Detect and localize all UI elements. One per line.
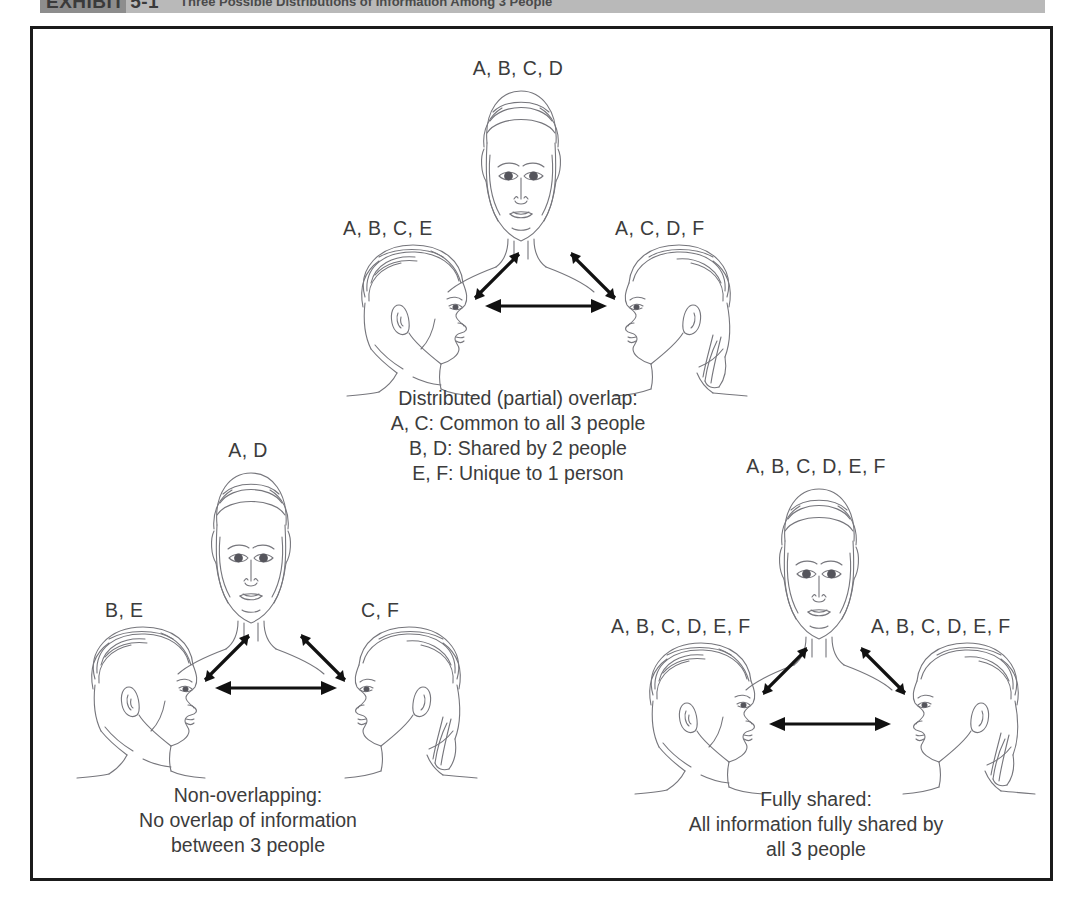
set-label-top: A, B, C, D, E, F <box>746 455 886 478</box>
right-profile-head-icon <box>893 635 1045 795</box>
person-group-non-overlapping: A, D <box>43 411 503 881</box>
figure-frame: A, B, C, D <box>30 26 1053 881</box>
caption-line: all 3 people <box>689 837 944 862</box>
caption-line: All information fully shared by <box>689 812 944 837</box>
person-group-fully-shared: A, B, C, D, E, F <box>581 439 1051 884</box>
exhibit-number-label: EXHIBIT 5-1 <box>46 0 159 13</box>
running-header: EXHIBIT 5-1 Three Possible Distributions… <box>0 0 1080 15</box>
group-caption: Fully shared: All information fully shar… <box>689 787 944 862</box>
double-headed-arrow-icon <box>483 291 609 321</box>
group-caption: Non-overlapping: No overlap of informati… <box>139 783 357 858</box>
set-label-top: A, D <box>228 439 268 462</box>
caption-line: Distributed (partial) overlap: <box>391 386 646 411</box>
double-headed-arrow-icon <box>213 673 339 703</box>
exhibit-title-label: Three Possible Distributions of Informat… <box>180 0 552 9</box>
caption-line: between 3 people <box>139 833 357 858</box>
double-headed-arrow-icon <box>767 709 893 739</box>
caption-line: Non-overlapping: <box>139 783 357 808</box>
set-label-top: A, B, C, D <box>473 57 564 80</box>
right-profile-head-icon <box>335 619 487 779</box>
right-profile-head-icon <box>605 237 757 397</box>
double-headed-arrow-icon <box>851 639 915 703</box>
double-headed-arrow-icon <box>753 639 817 703</box>
caption-line: No overlap of information <box>139 808 357 833</box>
caption-line: Fully shared: <box>689 787 944 812</box>
